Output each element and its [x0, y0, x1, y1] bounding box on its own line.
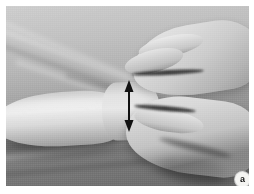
clinical-photograph: a	[6, 6, 249, 186]
panel-label-text: a	[240, 175, 245, 184]
forearm-highlight	[6, 97, 116, 120]
figure-root: a	[0, 0, 254, 194]
panel-label-badge: a	[235, 172, 249, 186]
